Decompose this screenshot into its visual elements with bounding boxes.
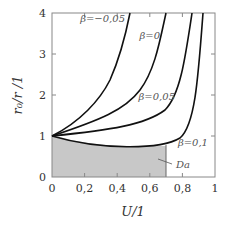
y-tick-1: 1 bbox=[39, 130, 46, 143]
y-tick-2: 2 bbox=[39, 89, 46, 102]
shaded-region-da bbox=[52, 136, 166, 177]
label-beta-neg-0-05: β=−0,05 bbox=[79, 13, 125, 24]
y-tick-3: 3 bbox=[39, 48, 46, 61]
y-tick-0: 0 bbox=[39, 171, 46, 184]
label-da: Da bbox=[175, 159, 190, 170]
y-tick-4: 4 bbox=[39, 7, 46, 20]
x-tick-3: 0,6 bbox=[141, 182, 159, 195]
x-tick-0: 0 bbox=[49, 182, 56, 195]
x-axis-label: U/1 bbox=[121, 204, 145, 219]
x-tick-5: 1 bbox=[212, 182, 219, 195]
x-tick-2: 0,4 bbox=[108, 182, 126, 195]
chart: 0 0,2 0,4 0,6 0,8 1 0 1 2 3 4 β=−0,05 β=… bbox=[0, 0, 230, 225]
curve-beta-neg-0-05 bbox=[52, 13, 130, 136]
svg-text:r₀/r /1: r₀/r /1 bbox=[10, 76, 25, 115]
label-beta-0: β=0 bbox=[138, 30, 160, 41]
y-axis-label: r₀/r /1 bbox=[10, 76, 25, 115]
curve-beta-0-05 bbox=[52, 13, 192, 136]
x-tick-4: 0,8 bbox=[174, 182, 192, 195]
label-beta-0-1: β=0,1 bbox=[177, 137, 208, 148]
x-tick-1: 0,2 bbox=[76, 182, 94, 195]
label-beta-0-05: β=0,05 bbox=[138, 91, 175, 102]
